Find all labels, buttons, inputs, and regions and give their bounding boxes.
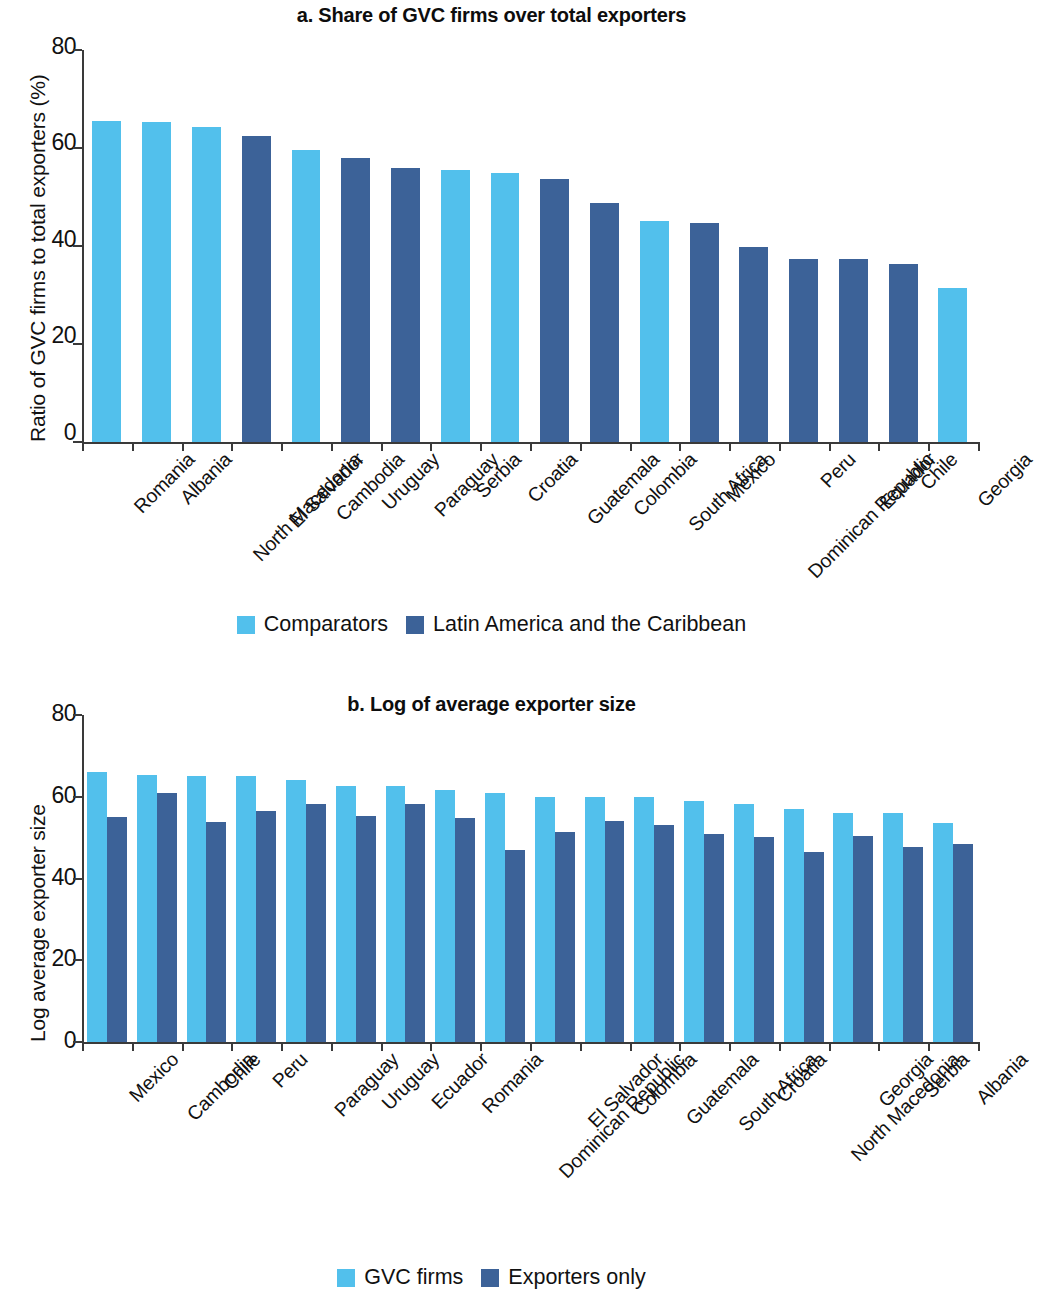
panel-b-legend: GVC firms Exporters only (0, 1265, 983, 1290)
bar-gvc-firms (684, 801, 704, 1042)
x-tick-label: Mexico (124, 1048, 183, 1107)
y-tick-20: 20 (51, 945, 76, 972)
bar-exporters-only (505, 850, 525, 1042)
panel-b-plot: Log average exporter size 80 60 40 20 0 (0, 695, 983, 1075)
bar-slot (381, 50, 431, 442)
bar-group (530, 715, 580, 1042)
legend-item-exporters-only: Exporters only (481, 1265, 645, 1290)
bar-slot (331, 50, 381, 442)
bar (789, 259, 818, 442)
bar-gvc-firms (137, 775, 157, 1042)
bar (540, 179, 569, 442)
bar-gvc-firms (734, 804, 754, 1042)
panel-a-y-axis-label: Ratio of GVC firms to total exporters (%… (26, 74, 50, 442)
bar (341, 158, 370, 442)
legend-swatch-icon-exporters-only (481, 1269, 499, 1287)
bar-gvc-firms (585, 797, 605, 1042)
bar-group (928, 715, 978, 1042)
x-tick-label: Peru (268, 1048, 313, 1093)
legend-label-gvc-firms: GVC firms (364, 1265, 463, 1290)
bar-exporters-only (605, 821, 625, 1042)
bar (640, 221, 669, 442)
bar-group (828, 715, 878, 1042)
legend-item-comparators: Comparators (237, 612, 388, 637)
legend-swatch-icon-comparators (237, 616, 255, 634)
bar-slot (281, 50, 331, 442)
legend-swatch-icon-gvc-firms (337, 1269, 355, 1287)
bar-slot (828, 50, 878, 442)
panel-a: a. Share of GVC firms over total exporte… (0, 0, 983, 660)
bar-exporters-only (157, 793, 177, 1042)
bar-group (779, 715, 829, 1042)
bar-gvc-firms (336, 786, 356, 1042)
bar (491, 173, 520, 443)
bar (690, 223, 719, 442)
bar (192, 127, 221, 442)
panel-a-bars (82, 50, 978, 442)
legend-label-lac: Latin America and the Caribbean (433, 612, 746, 637)
bar-group (281, 715, 331, 1042)
x-tick-label: Georgia (973, 448, 1037, 512)
bar-exporters-only (903, 847, 923, 1042)
panel-a-title: a. Share of GVC firms over total exporte… (0, 0, 983, 30)
bar (292, 150, 321, 442)
bar-group (132, 715, 182, 1042)
bar-exporters-only (654, 825, 674, 1042)
bar-slot (182, 50, 232, 442)
bar-group (729, 715, 779, 1042)
bar-group (182, 715, 232, 1042)
bar-slot (679, 50, 729, 442)
bar-group (629, 715, 679, 1042)
bar-gvc-firms (634, 797, 654, 1042)
legend-label-exporters-only: Exporters only (508, 1265, 645, 1290)
panel-b-bars (82, 715, 978, 1042)
panel-b-y-axis-label: Log average exporter size (26, 804, 50, 1042)
bar-gvc-firms (236, 776, 256, 1042)
legend-item-lac: Latin America and the Caribbean (406, 612, 746, 637)
bar-gvc-firms (187, 776, 207, 1042)
bar (242, 136, 271, 442)
bar-gvc-firms (535, 797, 555, 1042)
bar-exporters-only (306, 804, 326, 1042)
legend-swatch-icon-lac (406, 616, 424, 634)
bar (590, 203, 619, 442)
x-tick-label: Peru (815, 448, 860, 493)
bar-gvc-firms (386, 786, 406, 1042)
bar-slot (928, 50, 978, 442)
x-tick-label: Croatia (523, 448, 582, 507)
bar-gvc-firms (485, 793, 505, 1042)
bar-exporters-only (107, 817, 127, 1042)
bar-slot (82, 50, 132, 442)
x-tick-label: Albania (972, 1048, 1033, 1109)
bar-group (231, 715, 281, 1042)
bar-slot (132, 50, 182, 442)
bar (889, 264, 918, 442)
panel-a-plot: Ratio of GVC firms to total exporters (%… (0, 30, 983, 450)
bar-exporters-only (256, 811, 276, 1042)
panel-b: b. Log of average exporter size Log aver… (0, 665, 983, 1315)
bar-exporters-only (704, 834, 724, 1042)
bar (92, 121, 121, 442)
y-tick-0: 0 (64, 1027, 76, 1054)
bar-slot (231, 50, 281, 442)
bar-exporters-only (853, 836, 873, 1042)
bar-gvc-firms (933, 823, 953, 1042)
bar-gvc-firms (883, 813, 903, 1042)
bar-gvc-firms (784, 809, 804, 1042)
y-tick-80: 80 (51, 33, 76, 60)
bar-group (580, 715, 630, 1042)
bar (839, 259, 868, 442)
bar-slot (629, 50, 679, 442)
bar-exporters-only (206, 822, 226, 1042)
y-tick-40: 40 (51, 226, 76, 253)
bar-exporters-only (804, 852, 824, 1042)
bar-exporters-only (455, 818, 475, 1042)
bar-slot (779, 50, 829, 442)
bar-slot (530, 50, 580, 442)
bar-group (331, 715, 381, 1042)
bar-gvc-firms (833, 813, 853, 1042)
bar-exporters-only (953, 844, 973, 1042)
panel-b-title: b. Log of average exporter size (0, 665, 983, 695)
legend-item-gvc-firms: GVC firms (337, 1265, 463, 1290)
bar-gvc-firms (286, 780, 306, 1042)
